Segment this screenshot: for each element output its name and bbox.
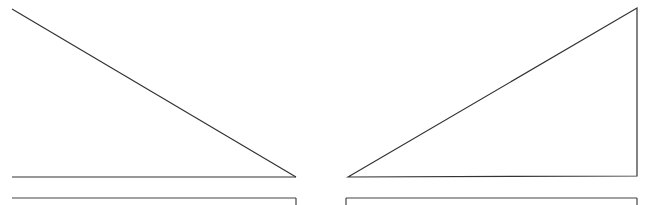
- right-box-partial: [346, 198, 637, 205]
- left-box-partial: [12, 198, 296, 205]
- left-open-triangle: [12, 9, 296, 177]
- right-triangle-shape: [348, 8, 637, 177]
- right-triangle: [348, 8, 637, 177]
- diagram-canvas: [0, 0, 654, 205]
- left-triangle-hypotenuse: [12, 9, 296, 177]
